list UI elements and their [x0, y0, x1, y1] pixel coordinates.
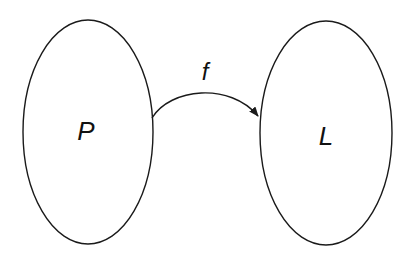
- set-l: L: [260, 21, 392, 245]
- mapping-arrow-f: f: [152, 58, 258, 118]
- mapping-label: f: [202, 58, 211, 85]
- set-p: P: [23, 20, 153, 244]
- set-l-label: L: [319, 121, 333, 151]
- mapping-diagram: P L f: [0, 0, 415, 264]
- arrow-curve: [152, 93, 258, 118]
- set-p-label: P: [77, 116, 95, 146]
